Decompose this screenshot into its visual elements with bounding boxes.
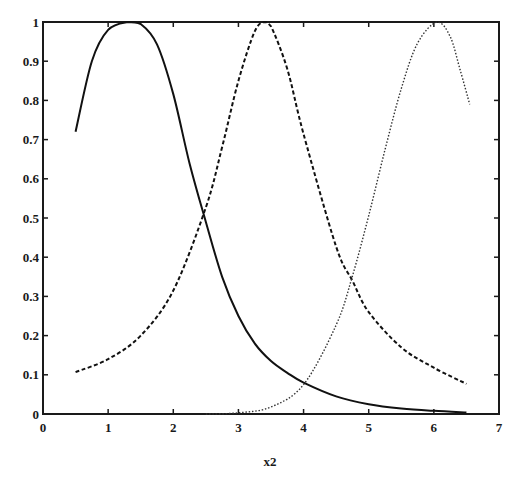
plot-frame <box>43 22 499 414</box>
x-axis-label: x2 <box>264 454 277 469</box>
y-tick-label: 0.4 <box>23 250 40 265</box>
y-axis-ticks: 00.10.20.30.40.50.60.70.80.91 <box>23 15 499 422</box>
y-tick-label: 0.1 <box>23 367 39 382</box>
x-tick-label: 1 <box>105 420 112 435</box>
series-line-solid <box>76 22 467 412</box>
x-tick-label: 5 <box>365 420 372 435</box>
x-tick-label: 2 <box>170 420 177 435</box>
x-axis-ticks: 01234567 <box>40 22 503 435</box>
y-tick-label: 0.5 <box>23 211 40 226</box>
y-tick-label: 0.8 <box>23 93 40 108</box>
y-tick-label: 0.6 <box>23 171 40 186</box>
x-tick-label: 7 <box>496 420 503 435</box>
x-tick-label: 3 <box>235 420 242 435</box>
y-tick-label: 0.9 <box>23 54 40 69</box>
y-tick-label: 1 <box>33 15 40 30</box>
y-tick-label: 0 <box>33 407 40 422</box>
chart: 01234567 00.10.20.30.40.50.60.70.80.91 x… <box>0 0 520 483</box>
series-layer <box>76 22 470 414</box>
y-tick-label: 0.7 <box>23 132 40 147</box>
y-tick-label: 0.2 <box>23 328 39 343</box>
x-tick-label: 4 <box>300 420 307 435</box>
y-tick-label: 0.3 <box>23 289 40 304</box>
series-line-dotted <box>206 22 470 414</box>
x-tick-label: 6 <box>431 420 438 435</box>
x-tick-label: 0 <box>40 420 47 435</box>
series-line-dashed <box>76 22 467 384</box>
plot-area: 01234567 00.10.20.30.40.50.60.70.80.91 <box>23 15 503 436</box>
